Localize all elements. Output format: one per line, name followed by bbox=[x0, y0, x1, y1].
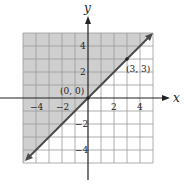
point-3-3 bbox=[125, 57, 129, 61]
y-tick: 2 bbox=[80, 67, 86, 77]
y-tick: −4 bbox=[75, 145, 89, 155]
point-origin bbox=[86, 96, 90, 100]
x-tick: −4 bbox=[30, 102, 44, 112]
y-tick: −2 bbox=[75, 119, 88, 129]
x-tick: 4 bbox=[137, 102, 143, 112]
inequality-graph: x y −4 −2 2 4 4 2 −2 −4 (0, 0) (3, 3) bbox=[0, 0, 184, 184]
y-axis-label: y bbox=[83, 1, 91, 15]
x-axis-arrow-icon bbox=[162, 95, 170, 101]
x-tick: −2 bbox=[56, 102, 69, 112]
point-label-3-3: (3, 3) bbox=[126, 64, 150, 74]
y-tick: 4 bbox=[80, 41, 86, 51]
y-axis-arrow-icon bbox=[85, 16, 91, 24]
origin-label: (0, 0) bbox=[60, 86, 84, 96]
x-axis-label: x bbox=[173, 91, 180, 105]
x-tick: 2 bbox=[111, 102, 117, 112]
